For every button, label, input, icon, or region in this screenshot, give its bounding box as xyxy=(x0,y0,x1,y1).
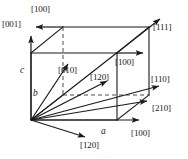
label-direction-120-mid: [120] xyxy=(90,72,109,82)
edge-bottom-right-diag xyxy=(117,95,149,120)
label-direction-100-top: [100] xyxy=(31,4,50,14)
vector-120-bottom xyxy=(31,120,85,137)
label-axis-b: b xyxy=(33,88,38,98)
label-axis-a: a xyxy=(101,126,106,136)
label-direction-100-bottom: [100] xyxy=(131,128,150,138)
label-direction-001: [001] xyxy=(2,19,21,29)
label-direction-111: [111] xyxy=(153,22,171,32)
label-direction-100-mid: [100] xyxy=(115,57,134,67)
vector-111 xyxy=(31,19,160,120)
label-direction-010: [010] xyxy=(58,65,77,75)
label-axis-c: c xyxy=(20,65,24,75)
label-direction-120-bottom: [120] xyxy=(80,140,99,150)
label-direction-110: [110] xyxy=(151,74,170,84)
label-direction-210: [210] xyxy=(152,103,171,113)
edge-top-left-diag xyxy=(31,27,63,53)
crystal-direction-diagram: [100] [001] [111] [100] [010] [120] [110… xyxy=(0,0,188,159)
